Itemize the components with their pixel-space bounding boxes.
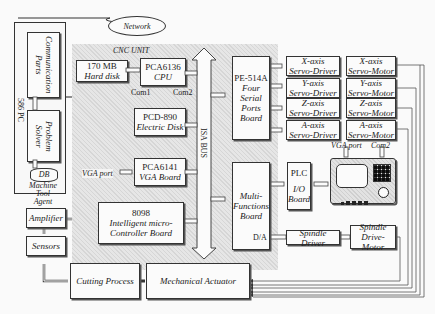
panel-vga-port-label: VGA port	[331, 141, 362, 150]
a-axis-servo-driver: A-axisServo-Driver	[286, 120, 340, 140]
isa-bus-label: ISA BUS	[199, 128, 208, 158]
y-axis-servo-motor: Y-axisServo-Motor	[346, 78, 396, 98]
spindle-driver: Spindle Driver	[286, 230, 340, 245]
plc-io-board: PLC I/O Board	[287, 162, 311, 210]
sensors: Sensors	[26, 236, 66, 256]
x-axis-servo-driver: X-axisServo-Driver	[286, 56, 340, 76]
panel-keypad	[373, 164, 391, 182]
cutting-process: Cutting Process	[70, 263, 140, 299]
a-axis-servo-motor: A-axisServo-Motor	[346, 120, 396, 140]
serial-ports-board: PE-514A Four Serial Ports Board	[232, 56, 270, 140]
spindle-drive-motor: Spindle Drive-Motor	[350, 225, 396, 249]
x-axis-servo-motor: X-axisServo-Motor	[346, 56, 396, 76]
amplifier: Amplifier	[26, 208, 66, 228]
panel-screen	[336, 164, 368, 188]
panel-knob	[378, 187, 389, 198]
da-label: D/A	[253, 233, 267, 242]
z-axis-servo-motor: Z-axisServo-Motor	[346, 98, 396, 118]
panel-com2-label: Com2	[371, 141, 390, 150]
panel-buttons	[341, 191, 368, 209]
mechanical-actuator: Mechanical Actuator	[146, 263, 250, 299]
operator-panel	[330, 158, 396, 204]
y-axis-servo-driver: Y-axisServo-Driver	[286, 78, 340, 98]
z-axis-servo-driver: Z-axisServo-Driver	[286, 98, 340, 118]
